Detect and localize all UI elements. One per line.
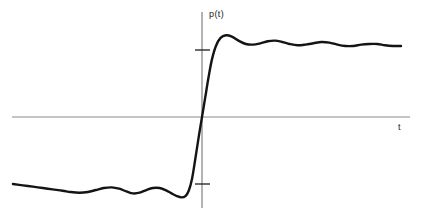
data-series-group	[13, 35, 401, 197]
figure-plot-p-of-t: p(t) t	[0, 0, 423, 218]
x-axis-label: t	[398, 122, 401, 132]
plot-canvas	[0, 0, 423, 218]
axes-group	[12, 12, 410, 208]
curve-p-of-t	[13, 35, 401, 197]
y-axis-label: p(t)	[209, 9, 224, 19]
